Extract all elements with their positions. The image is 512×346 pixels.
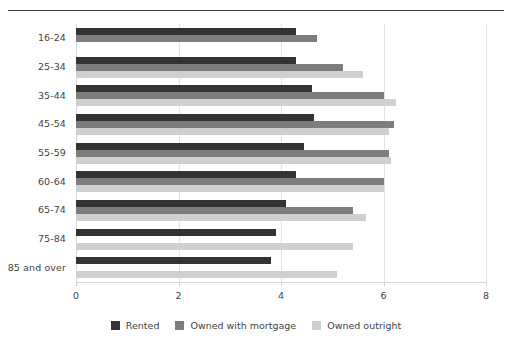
bar-group (76, 257, 486, 278)
bar-group (76, 143, 486, 164)
chart-figure: 16-2425-3435-4445-5455-5960-6465-7475-84… (0, 0, 512, 346)
x-axis-tick-labels: 02468 (0, 290, 512, 306)
legend-swatch-icon (175, 321, 184, 330)
x-tick-mark-0 (76, 282, 77, 286)
bar-group (76, 57, 486, 78)
bar-group (76, 200, 486, 221)
y-axis-label: 65-74 (38, 204, 66, 215)
bar[interactable] (76, 243, 353, 250)
y-axis-label: 75-84 (38, 233, 66, 244)
legend-item[interactable]: Owned outright (312, 320, 401, 331)
bar[interactable] (76, 200, 286, 207)
x-axis-tick-label: 4 (278, 290, 284, 301)
x-axis-tick-label: 6 (380, 290, 386, 301)
x-tick-mark-4 (281, 282, 282, 286)
plot-area (76, 24, 486, 282)
y-axis-category-labels: 16-2425-3435-4445-5455-5960-6465-7475-84… (0, 24, 70, 282)
bar[interactable] (76, 229, 276, 236)
bar[interactable] (76, 64, 343, 71)
bar[interactable] (76, 257, 271, 264)
bar[interactable] (76, 114, 314, 121)
legend-swatch-icon (111, 321, 120, 330)
y-axis-label: 25-34 (38, 61, 66, 72)
y-axis-label: 45-54 (38, 118, 66, 129)
bar[interactable] (76, 185, 384, 192)
y-axis-label: 16-24 (38, 32, 66, 43)
bar-group (76, 28, 486, 49)
y-axis-label: 60-64 (38, 176, 66, 187)
bar[interactable] (76, 143, 304, 150)
bar[interactable] (76, 28, 296, 35)
bar-group (76, 229, 486, 250)
bar[interactable] (76, 157, 391, 164)
bar[interactable] (76, 35, 317, 42)
bar[interactable] (76, 207, 353, 214)
bar[interactable] (76, 121, 394, 128)
bar[interactable] (76, 128, 389, 135)
bar-group (76, 171, 486, 192)
y-axis-label: 35-44 (38, 90, 66, 101)
legend-label: Owned outright (327, 320, 401, 331)
y-axis-label: 55-59 (38, 147, 66, 158)
bar[interactable] (76, 57, 296, 64)
chart-legend: RentedOwned with mortgageOwned outright (0, 316, 512, 334)
legend-item[interactable]: Owned with mortgage (175, 320, 296, 331)
legend-item[interactable]: Rented (111, 320, 160, 331)
bar[interactable] (76, 85, 312, 92)
bar[interactable] (76, 214, 366, 221)
x-tick-mark-8 (486, 282, 487, 286)
gridline-x-8 (486, 24, 487, 282)
x-axis-tick-label: 2 (175, 290, 181, 301)
x-tick-mark-2 (179, 282, 180, 286)
legend-label: Owned with mortgage (190, 320, 296, 331)
bar[interactable] (76, 99, 396, 106)
legend-swatch-icon (312, 321, 321, 330)
legend-label: Rented (126, 320, 160, 331)
x-axis-tick-label: 0 (73, 290, 79, 301)
x-tick-mark-6 (384, 282, 385, 286)
bar[interactable] (76, 92, 384, 99)
bar[interactable] (76, 71, 363, 78)
header-rule (8, 10, 504, 11)
bar-group (76, 85, 486, 106)
bar[interactable] (76, 271, 337, 278)
bar[interactable] (76, 171, 296, 178)
bar-group (76, 114, 486, 135)
bar[interactable] (76, 150, 389, 157)
y-axis-label: 85 and over (8, 262, 66, 273)
bar[interactable] (76, 178, 384, 185)
x-axis-tick-label: 8 (483, 290, 489, 301)
